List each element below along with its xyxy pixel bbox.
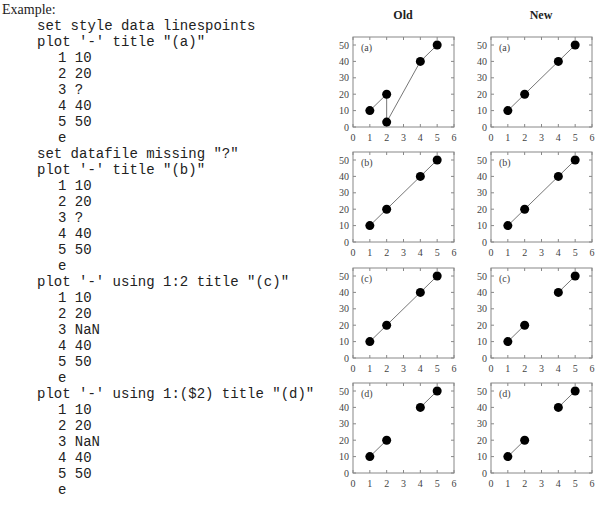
data-point [503, 106, 512, 115]
x-tick-label: 5 [573, 478, 578, 489]
x-tick-label: 4 [556, 478, 561, 489]
data-line [370, 45, 437, 122]
x-tick-label: 2 [522, 132, 527, 143]
code-line: 4 40 [58, 226, 92, 242]
data-point [571, 41, 580, 50]
plot-label: (a) [361, 42, 372, 54]
x-tick-label: 3 [401, 247, 406, 258]
y-tick-label: 10 [339, 220, 349, 231]
y-tick-label: 0 [482, 122, 487, 133]
y-tick-label: 30 [477, 187, 487, 198]
x-tick-label: 4 [556, 132, 561, 143]
code-line: 3 ? [58, 82, 83, 98]
y-tick-label: 40 [339, 287, 349, 298]
x-tick-label: 1 [367, 247, 372, 258]
data-point [554, 288, 563, 297]
code-line: 4 40 [58, 98, 92, 114]
x-tick-label: 0 [489, 363, 494, 374]
y-tick-label: 40 [339, 56, 349, 67]
y-tick-label: 50 [477, 40, 487, 51]
data-point [571, 387, 580, 396]
code-line: plot '-' title "(b)" [37, 162, 205, 178]
x-tick-label: 5 [573, 247, 578, 258]
code-line: 4 40 [58, 450, 92, 466]
y-tick-label: 10 [477, 220, 487, 231]
code-line: e [58, 258, 66, 274]
x-tick-label: 6 [590, 363, 595, 374]
data-line [508, 45, 575, 111]
data-point [433, 41, 442, 50]
x-tick-label: 3 [539, 132, 544, 143]
y-tick-label: 10 [477, 336, 487, 347]
code-line: 2 20 [58, 194, 92, 210]
y-tick-label: 40 [477, 402, 487, 413]
data-point [554, 403, 563, 412]
data-line [370, 276, 437, 342]
column-title-old: Old [373, 8, 433, 23]
x-tick-label: 6 [590, 247, 595, 258]
x-tick-label: 6 [452, 247, 457, 258]
y-tick-label: 50 [339, 40, 349, 51]
data-point [416, 172, 425, 181]
x-tick-label: 4 [418, 247, 423, 258]
data-point [571, 272, 580, 281]
x-tick-label: 3 [401, 132, 406, 143]
data-point [416, 403, 425, 412]
x-tick-label: 6 [452, 132, 457, 143]
code-line: 3 NaN [58, 434, 100, 450]
data-point [365, 337, 374, 346]
x-tick-label: 4 [418, 478, 423, 489]
x-tick-label: 2 [522, 363, 527, 374]
y-tick-label: 0 [482, 468, 487, 479]
code-line: 3 NaN [58, 322, 100, 338]
code-line: 1 10 [58, 402, 92, 418]
y-tick-label: 40 [477, 171, 487, 182]
code-line: e [58, 482, 66, 498]
x-tick-label: 4 [418, 363, 423, 374]
x-tick-label: 6 [590, 478, 595, 489]
x-tick-label: 2 [384, 478, 389, 489]
y-tick-label: 50 [477, 271, 487, 282]
x-tick-label: 0 [351, 132, 356, 143]
y-tick-label: 30 [339, 187, 349, 198]
x-tick-label: 1 [505, 132, 510, 143]
y-tick-label: 10 [339, 451, 349, 462]
y-tick-label: 0 [344, 237, 349, 248]
code-line: 2 20 [58, 418, 92, 434]
data-point [365, 221, 374, 230]
data-line [370, 160, 437, 226]
data-point [382, 90, 391, 99]
y-tick-label: 50 [477, 386, 487, 397]
y-tick-label: 40 [477, 287, 487, 298]
plot-label: (b) [361, 157, 373, 169]
y-tick-label: 40 [339, 402, 349, 413]
code-line: 3 ? [58, 210, 83, 226]
data-point [554, 172, 563, 181]
data-point [520, 436, 529, 445]
x-tick-label: 1 [367, 363, 372, 374]
x-tick-label: 0 [351, 247, 356, 258]
y-tick-label: 0 [344, 468, 349, 479]
y-tick-label: 30 [339, 72, 349, 83]
x-tick-label: 0 [489, 132, 494, 143]
y-tick-label: 30 [477, 72, 487, 83]
y-tick-label: 30 [477, 418, 487, 429]
plot-old-d: 010203040500123456(d) [353, 383, 454, 473]
y-tick-label: 20 [477, 320, 487, 331]
code-line: set style data linespoints [37, 18, 255, 34]
code-line: e [58, 130, 66, 146]
plot-old-a: 010203040500123456(a) [353, 37, 454, 127]
x-tick-label: 5 [573, 363, 578, 374]
data-point [365, 106, 374, 115]
x-tick-label: 1 [505, 247, 510, 258]
plot-new-c: 010203040500123456(c) [491, 268, 592, 358]
x-tick-label: 2 [384, 363, 389, 374]
example-label: Example: [2, 2, 56, 18]
x-tick-label: 3 [401, 478, 406, 489]
x-tick-label: 1 [505, 363, 510, 374]
y-tick-label: 50 [339, 155, 349, 166]
data-point [503, 337, 512, 346]
x-tick-label: 5 [573, 132, 578, 143]
y-tick-label: 0 [344, 122, 349, 133]
code-line: 1 10 [58, 178, 92, 194]
